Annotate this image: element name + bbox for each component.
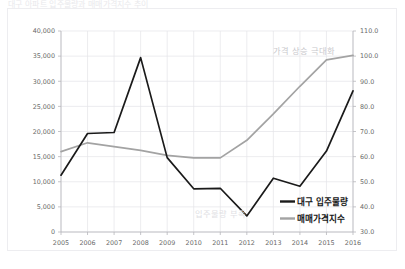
legend-label-maemae-price-index: 매매가격지수 (297, 213, 345, 224)
svg-text:2009: 2009 (159, 239, 175, 247)
svg-text:30.0: 30.0 (360, 228, 374, 236)
chart-card: 40,00035,00030,00025,00020,00015,00010,0… (7, 8, 397, 251)
svg-text:40.0: 40.0 (360, 203, 374, 211)
svg-text:50.0: 50.0 (360, 178, 374, 186)
combo-line-chart: 40,00035,00030,00025,00020,00015,00010,0… (8, 9, 398, 252)
svg-text:2012: 2012 (239, 239, 255, 247)
legend-label-daegu-supply: 대구 입주물량 (297, 196, 348, 207)
svg-text:2013: 2013 (265, 239, 281, 247)
svg-text:90.0: 90.0 (360, 78, 374, 86)
svg-text:5,000: 5,000 (37, 203, 55, 211)
svg-text:35,000: 35,000 (33, 52, 55, 60)
annotation-supply-shortage: 입주물량 부족 (195, 209, 246, 219)
svg-text:0: 0 (51, 228, 55, 236)
svg-text:2010: 2010 (186, 239, 202, 247)
svg-text:2011: 2011 (212, 239, 228, 247)
svg-text:2015: 2015 (318, 239, 334, 247)
x-axis-labels: 2005200620072008200920102011201220132014… (53, 239, 361, 247)
y-axis-right-labels: 110.0100.090.080.070.060.050.040.030.0 (360, 27, 378, 236)
y-axis-left-labels: 40,00035,00030,00025,00020,00015,00010,0… (33, 27, 55, 236)
svg-text:110.0: 110.0 (360, 27, 378, 35)
svg-text:40,000: 40,000 (33, 27, 55, 35)
svg-text:20,000: 20,000 (33, 128, 55, 136)
svg-text:30,000: 30,000 (33, 78, 55, 86)
svg-text:2007: 2007 (106, 239, 122, 247)
annotation-price-surge: 가격 상승 극대화 (273, 46, 334, 56)
svg-text:60.0: 60.0 (360, 153, 374, 161)
svg-text:25,000: 25,000 (33, 103, 55, 111)
svg-text:80.0: 80.0 (360, 103, 374, 111)
svg-text:100.0: 100.0 (360, 52, 378, 60)
svg-text:15,000: 15,000 (33, 153, 55, 161)
svg-text:2014: 2014 (292, 239, 308, 247)
svg-text:2016: 2016 (345, 239, 361, 247)
svg-text:2008: 2008 (133, 239, 149, 247)
svg-text:10,000: 10,000 (33, 178, 55, 186)
svg-text:2005: 2005 (53, 239, 69, 247)
svg-text:70.0: 70.0 (360, 128, 374, 136)
chart-legend: 대구 입주물량 매매가격지수 (280, 196, 348, 224)
svg-text:2006: 2006 (79, 239, 95, 247)
